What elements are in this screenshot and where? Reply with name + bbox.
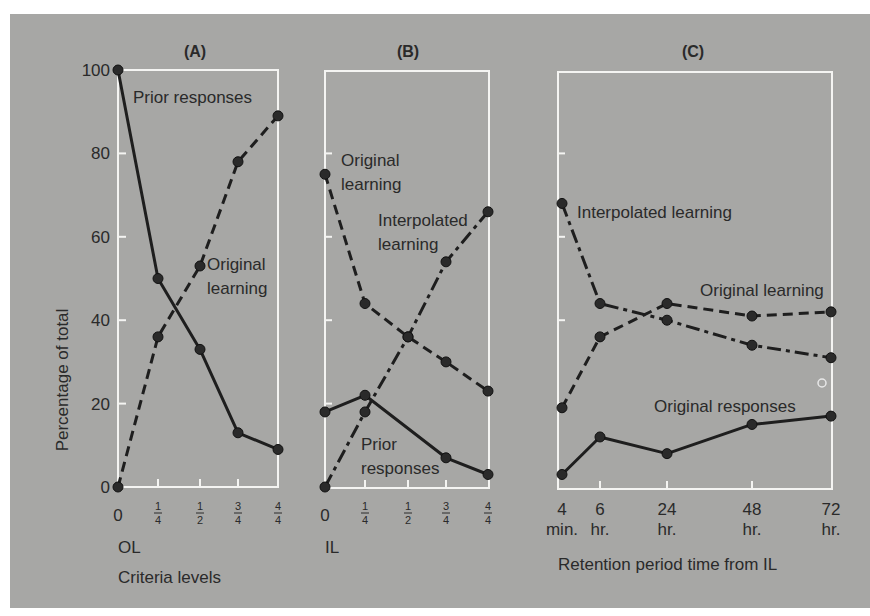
panel-a-x-label: Criteria levels xyxy=(118,568,221,587)
x-tick-label: 0 xyxy=(113,506,122,525)
x-tick-label: 2 xyxy=(197,514,203,526)
x-tick-label: min. xyxy=(546,520,578,539)
x-tick-label: 4 xyxy=(275,500,281,512)
y-tick-label: 20 xyxy=(91,395,110,414)
data-point xyxy=(595,432,605,442)
series-original-responses xyxy=(562,416,831,474)
data-point xyxy=(273,444,283,454)
panel-b-x-ticks: 014123444 xyxy=(320,480,492,526)
x-tick-label: 1 xyxy=(155,500,161,512)
y-tick-label: 0 xyxy=(101,478,110,497)
panel-c-x-label: Retention period time from IL xyxy=(558,555,777,574)
series-annotation: responses xyxy=(361,459,439,478)
panel-c-annotations: Interpolated learningOriginal learningOr… xyxy=(577,203,824,416)
chart-canvas: Percentage of total 020406080100 (A) 014… xyxy=(0,0,870,616)
data-point xyxy=(195,344,205,354)
panel-c-title: (C) xyxy=(682,43,704,60)
series-annotation: Original xyxy=(341,151,400,170)
x-tick-label: 4 xyxy=(485,514,491,526)
x-tick-label: 0 xyxy=(320,506,329,525)
x-tick-label: 1 xyxy=(197,500,203,512)
series-annotation: learning xyxy=(341,175,402,194)
x-tick-label: hr. xyxy=(658,520,677,539)
data-point xyxy=(320,169,330,179)
x-tick-label: 4 xyxy=(443,514,449,526)
panel-c-series xyxy=(557,198,836,479)
series-annotation: Interpolated xyxy=(378,211,468,230)
data-point xyxy=(441,257,451,267)
series-annotation: Original xyxy=(207,255,266,274)
data-point xyxy=(483,469,493,479)
data-point xyxy=(153,274,163,284)
data-point xyxy=(360,390,370,400)
data-point xyxy=(747,340,757,350)
x-tick-label: hr. xyxy=(591,520,610,539)
data-point xyxy=(441,357,451,367)
data-point xyxy=(595,299,605,309)
data-point xyxy=(233,157,243,167)
data-point xyxy=(441,453,451,463)
series-annotation: learning xyxy=(378,235,439,254)
panel-b-frame xyxy=(325,71,489,488)
y-tick-label: 60 xyxy=(91,228,110,247)
x-tick-label: 3 xyxy=(443,500,449,512)
series-annotation: Interpolated learning xyxy=(577,203,732,222)
panel-b-title: (B) xyxy=(397,43,419,60)
data-point xyxy=(320,482,330,492)
x-tick-label: 4 xyxy=(155,514,161,526)
x-tick-label: 24 xyxy=(658,500,677,519)
data-point xyxy=(360,299,370,309)
x-tick-label: 3 xyxy=(235,500,241,512)
data-point xyxy=(557,403,567,413)
series-original-learning xyxy=(118,116,278,487)
x-tick-label: 72 xyxy=(822,500,841,519)
data-point xyxy=(826,307,836,317)
x-tick-label: 4 xyxy=(485,500,491,512)
x-tick-label: 4 xyxy=(235,514,241,526)
series-annotation: Prior responses xyxy=(133,88,252,107)
data-point xyxy=(747,419,757,429)
data-point xyxy=(826,411,836,421)
x-tick-label: 4 xyxy=(362,514,368,526)
data-point xyxy=(747,311,757,321)
data-point xyxy=(483,207,493,217)
y-axis-label: Percentage of total xyxy=(53,309,72,452)
panel-b: (B) 014123444 OriginallearningInterpolat… xyxy=(320,43,493,557)
data-point xyxy=(113,65,123,75)
x-tick-label: hr. xyxy=(743,520,762,539)
data-point xyxy=(662,299,672,309)
data-point xyxy=(113,482,123,492)
panel-c: (C) 4min.6hr.24hr.48hr.72hr. Interpolate… xyxy=(546,43,841,574)
y-tick-label: 100 xyxy=(82,61,110,80)
data-point xyxy=(153,332,163,342)
series-annotation: Prior xyxy=(361,435,397,454)
series-original-learning xyxy=(325,174,488,391)
x-tick-label: 6 xyxy=(595,500,604,519)
data-point xyxy=(557,469,567,479)
data-point xyxy=(826,353,836,363)
data-point xyxy=(233,428,243,438)
series-annotation: learning xyxy=(207,279,268,298)
panel-a-x-sublabel: OL xyxy=(118,538,141,557)
x-tick-label: hr. xyxy=(822,520,841,539)
x-tick-label: 2 xyxy=(405,514,411,526)
data-point xyxy=(360,407,370,417)
data-point xyxy=(483,386,493,396)
x-tick-label: 1 xyxy=(362,500,368,512)
data-point xyxy=(195,261,205,271)
panel-b-x-sublabel: IL xyxy=(325,538,339,557)
series-original-learning xyxy=(562,304,831,408)
data-point xyxy=(273,111,283,121)
panel-a-title: (A) xyxy=(184,43,206,60)
data-point xyxy=(557,198,567,208)
scan-artifact-ring xyxy=(818,379,826,387)
data-point xyxy=(662,315,672,325)
panel-a: (A) 014123444 Prior responsesOriginallea… xyxy=(113,43,283,587)
data-point xyxy=(595,332,605,342)
data-point xyxy=(662,449,672,459)
x-tick-label: 4 xyxy=(557,500,566,519)
series-annotation: Original learning xyxy=(700,281,824,300)
panel-b-annotations: OriginallearningInterpolatedlearningPrio… xyxy=(341,151,468,478)
x-tick-label: 1 xyxy=(405,500,411,512)
x-tick-label: 4 xyxy=(275,514,281,526)
